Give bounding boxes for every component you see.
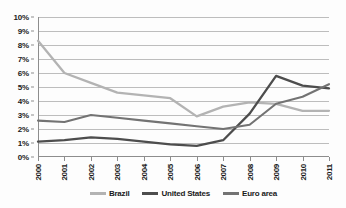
legend-swatch-icon	[223, 192, 239, 195]
legend-item-brazil[interactable]: Brazil	[90, 189, 130, 198]
x-tick-mark	[329, 157, 330, 161]
y-axis: 0%1%2%3%4%5%6%7%8%9%10%	[0, 17, 34, 157]
y-tick-label: 0%	[18, 153, 29, 162]
y-tick-mark	[31, 73, 34, 74]
y-tick-label: 3%	[18, 111, 29, 120]
y-tick-label: 10%	[14, 13, 29, 22]
y-tick-label: 5%	[18, 83, 29, 92]
y-tick-mark	[31, 45, 34, 46]
x-tick-label: 2009	[272, 164, 281, 181]
y-tick-mark	[31, 31, 34, 32]
y-tick-mark	[31, 115, 34, 116]
x-tick-label: 2005	[166, 164, 175, 181]
x-tick-mark	[144, 157, 145, 161]
x-tick-label: 2001	[60, 164, 69, 181]
y-tick-label: 4%	[18, 97, 29, 106]
x-tick-mark	[64, 157, 65, 161]
x-tick-mark	[170, 157, 171, 161]
x-tick-label: 2006	[193, 164, 202, 181]
y-tick-label: 2%	[18, 125, 29, 134]
y-tick-label: 9%	[18, 27, 29, 36]
x-tick-label: 2004	[140, 164, 149, 181]
y-tick-mark	[31, 129, 34, 130]
series-line-united-states	[38, 76, 329, 146]
legend-swatch-icon	[90, 192, 106, 195]
y-tick-label: 1%	[18, 139, 29, 148]
x-tick-mark	[223, 157, 224, 161]
x-tick-mark	[38, 157, 39, 161]
line-chart: 0%1%2%3%4%5%6%7%8%9%10% 2000200120022003…	[0, 0, 346, 208]
y-tick-mark	[31, 17, 34, 18]
y-tick-mark	[31, 143, 34, 144]
legend-label: Brazil	[109, 189, 130, 198]
y-tick-mark	[31, 157, 34, 158]
x-tick-label: 2003	[113, 164, 122, 181]
x-tick-label: 2000	[34, 164, 43, 181]
y-tick-label: 6%	[18, 69, 29, 78]
legend-item-euro-area[interactable]: Euro area	[223, 189, 277, 198]
legend-label: Euro area	[242, 189, 277, 198]
y-tick-mark	[31, 87, 34, 88]
x-tick-mark	[117, 157, 118, 161]
series-layer	[38, 17, 329, 157]
x-tick-label: 2011	[325, 164, 334, 180]
x-tick-mark	[197, 157, 198, 161]
x-tick-mark	[91, 157, 92, 161]
chart-legend: BrazilUnited StatesEuro area	[38, 186, 329, 200]
legend-label: United States	[161, 189, 210, 198]
y-tick-label: 7%	[18, 55, 29, 64]
y-tick-mark	[31, 101, 34, 102]
x-tick-label: 2002	[87, 164, 96, 181]
x-tick-label: 2008	[246, 164, 255, 181]
x-tick-label: 2007	[219, 164, 228, 181]
legend-swatch-icon	[142, 192, 158, 195]
legend-item-united-states[interactable]: United States	[142, 189, 210, 198]
y-tick-mark	[31, 59, 34, 60]
y-tick-label: 8%	[18, 41, 29, 50]
x-tick-mark	[276, 157, 277, 161]
x-tick-mark	[250, 157, 251, 161]
x-tick-mark	[303, 157, 304, 161]
x-tick-label: 2010	[299, 164, 308, 181]
